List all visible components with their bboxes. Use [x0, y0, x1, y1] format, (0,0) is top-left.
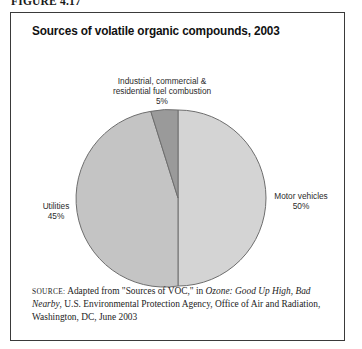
pie-label-industrial-percent: 5% [87, 96, 237, 106]
source-keyword: SOURCE: [32, 287, 65, 296]
source-text-before: Adapted from "Sources of VOC," in [65, 286, 205, 296]
pie-label-utilities: Utilities 45% [17, 201, 95, 221]
pie-label-motor-percent: 50% [259, 201, 343, 211]
pie-label-utilities-name: Utilities [43, 201, 70, 211]
pie-label-industrial-fuel-combustion: Industrial, commercial & residential fue… [87, 76, 237, 107]
source-note: SOURCE: Adapted from "Sources of VOC," i… [32, 285, 328, 325]
pie-label-motor-vehicles: Motor vehicles 50% [259, 191, 343, 211]
pie-label-motor-name: Motor vehicles [274, 191, 328, 201]
pie-label-industrial-line2: residential fuel combustion [113, 86, 211, 96]
figure-number-label: FIGURE 4.17 [11, 0, 81, 7]
figure-frame: Sources of volatile organic compounds, 2… [10, 12, 345, 341]
pie-label-industrial-line1: Industrial, commercial & [118, 76, 207, 86]
source-text-after: , U.S. Environmental Protection Agency, … [32, 299, 320, 322]
pie-label-utilities-percent: 45% [17, 211, 95, 221]
pie-slice-motor-vehicles[interactable] [178, 110, 266, 286]
